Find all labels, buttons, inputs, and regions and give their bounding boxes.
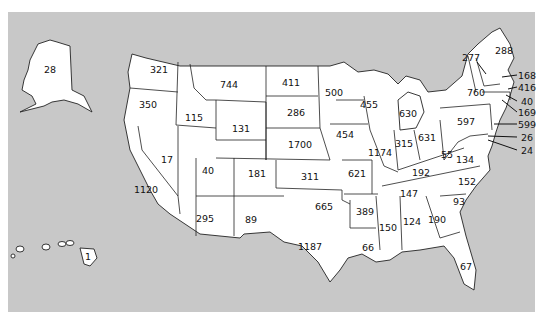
state-label-mn: 500: [325, 87, 343, 98]
state-label-nd: 411: [282, 77, 300, 88]
state-label-de: 26: [521, 132, 533, 143]
state-label-ga: 190: [428, 214, 446, 225]
state-label-oh: 631: [418, 132, 436, 143]
state-label-ks: 311: [301, 171, 319, 182]
state-label-va: 134: [456, 154, 474, 165]
state-label-vt: 277: [462, 52, 480, 63]
state-label-mo: 621: [348, 168, 366, 179]
state-label-nv: 17: [161, 154, 173, 165]
state-label-nc: 152: [458, 176, 476, 187]
state-label-ne: 1700: [288, 139, 312, 150]
state-label-tx: 1187: [298, 241, 322, 252]
state-label-ok: 665: [315, 201, 333, 212]
state-label-ak: 28: [44, 64, 56, 75]
state-label-nm: 89: [245, 214, 257, 225]
state-label-pa: 597: [457, 116, 475, 127]
state-hawaii-island: [11, 254, 15, 258]
state-label-ut: 40: [202, 165, 214, 176]
state-hawaii-island: [58, 242, 66, 247]
state-label-fl: 67: [460, 261, 472, 272]
state-label-wv: 55: [441, 149, 453, 160]
state-label-sd: 286: [287, 107, 305, 118]
state-label-az: 295: [196, 213, 214, 224]
state-label-me: 288: [495, 45, 513, 56]
state-label-la: 66: [362, 242, 374, 253]
state-label-tn: 147: [400, 188, 418, 199]
state-label-or: 350: [139, 99, 157, 110]
state-label-sc: 93: [453, 196, 465, 207]
state-label-ca: 1120: [134, 184, 158, 195]
state-label-ct: 169: [518, 107, 536, 118]
state-label-nh: 168: [518, 70, 536, 81]
state-label-mt: 744: [220, 79, 238, 90]
state-alaska: [20, 40, 92, 112]
state-label-ky: 192: [412, 167, 430, 178]
state-label-id: 115: [185, 112, 203, 123]
state-label-ia: 454: [336, 129, 354, 140]
state-hawaii-island: [66, 241, 74, 246]
state-label-mi: 630: [399, 108, 417, 119]
state-label-wy: 131: [232, 123, 250, 134]
state-label-md: 24: [521, 145, 533, 156]
state-label-hi: 1: [85, 251, 91, 262]
state-label-ma: 416: [518, 82, 536, 93]
state-label-wa: 321: [150, 64, 168, 75]
state-label-ar: 389: [356, 206, 374, 217]
state-label-al: 124: [403, 216, 421, 227]
state-hawaii-island: [16, 246, 24, 252]
state-label-nj: 599: [518, 119, 536, 130]
state-label-ms: 150: [379, 222, 397, 233]
state-label-ny: 760: [467, 87, 485, 98]
state-hawaii-island: [42, 244, 50, 250]
state-label-in: 315: [395, 138, 413, 149]
state-label-wi: 455: [360, 99, 378, 110]
state-label-il: 1174: [368, 147, 392, 158]
state-label-ri: 40: [521, 96, 533, 107]
state-label-co: 181: [248, 168, 266, 179]
